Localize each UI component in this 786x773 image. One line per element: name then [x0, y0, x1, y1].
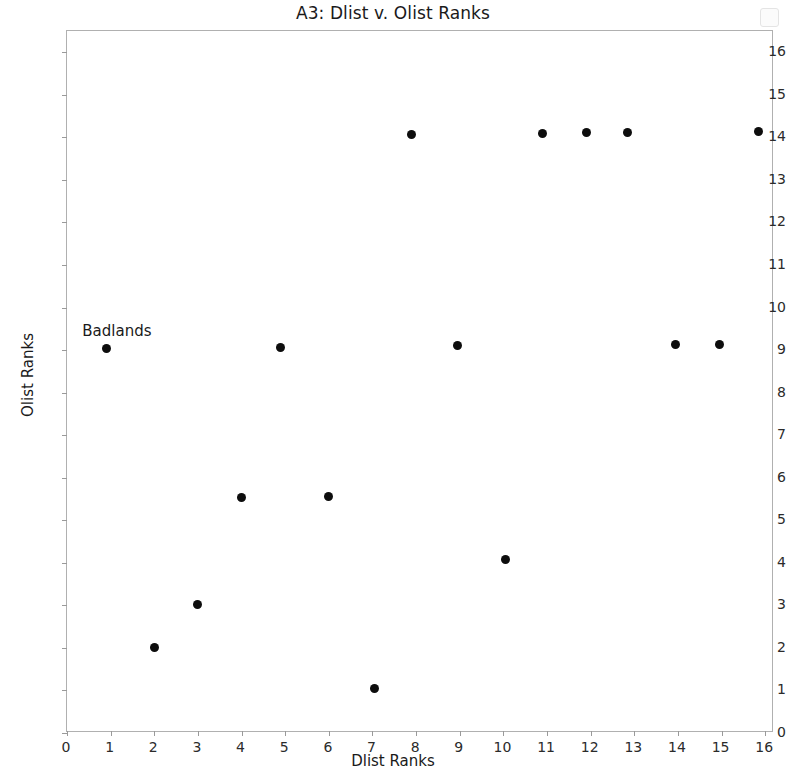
data-point[interactable]: [150, 643, 159, 652]
y-tick-mark: [62, 350, 67, 351]
data-point[interactable]: [102, 344, 111, 353]
x-tick-mark: [591, 731, 592, 736]
y-tick-mark: [62, 690, 67, 691]
y-tick-label: 5: [731, 511, 786, 527]
x-tick-mark: [242, 731, 243, 736]
legend-placeholder-box[interactable]: [760, 8, 779, 27]
x-tick-mark: [154, 731, 155, 736]
y-tick-label: 10: [731, 299, 786, 315]
y-tick-mark: [62, 648, 67, 649]
y-tick-label: 4: [731, 554, 786, 570]
y-tick-mark: [62, 435, 67, 436]
y-tick-label: 9: [731, 341, 786, 357]
y-tick-label: 8: [731, 384, 786, 400]
data-point[interactable]: [623, 128, 632, 137]
y-tick-mark: [62, 52, 67, 53]
x-tick-mark: [67, 731, 68, 736]
point-annotation: Badlands: [82, 322, 151, 340]
x-tick-mark: [416, 731, 417, 736]
y-tick-mark: [62, 222, 67, 223]
y-tick-label: 12: [731, 213, 786, 229]
y-tick-mark: [62, 137, 67, 138]
data-point[interactable]: [501, 555, 510, 564]
data-point[interactable]: [324, 492, 333, 501]
y-tick-mark: [62, 393, 67, 394]
scatter-plot-figure: A3: Dlist v. Olist Ranks Badlands 012345…: [0, 0, 786, 773]
data-point[interactable]: [538, 129, 547, 138]
data-point[interactable]: [453, 341, 462, 350]
page-title: A3: Dlist v. Olist Ranks: [0, 3, 786, 23]
y-tick-mark: [62, 308, 67, 309]
y-tick-label: 7: [731, 426, 786, 442]
y-tick-mark: [62, 605, 67, 606]
x-tick-mark: [678, 731, 679, 736]
y-tick-label: 6: [731, 469, 786, 485]
x-tick-mark: [329, 731, 330, 736]
data-point[interactable]: [582, 128, 591, 137]
y-tick-label: 2: [731, 639, 786, 655]
x-tick-mark: [285, 731, 286, 736]
data-point[interactable]: [276, 343, 285, 352]
data-point[interactable]: [193, 600, 202, 609]
y-tick-mark: [62, 478, 67, 479]
y-tick-label: 15: [731, 86, 786, 102]
y-tick-mark: [62, 180, 67, 181]
plot-area: Badlands: [66, 30, 773, 732]
x-axis-label: Dlist Ranks: [0, 752, 786, 770]
y-tick-label: 3: [731, 596, 786, 612]
x-tick-mark: [503, 731, 504, 736]
y-tick-label: 1: [731, 681, 786, 697]
y-tick-label: 11: [731, 256, 786, 272]
data-point[interactable]: [370, 684, 379, 693]
data-point[interactable]: [407, 130, 416, 139]
y-tick-mark: [62, 265, 67, 266]
x-tick-mark: [372, 731, 373, 736]
y-tick-label: 13: [731, 171, 786, 187]
y-tick-label: 0: [731, 724, 786, 740]
x-tick-mark: [111, 731, 112, 736]
x-tick-mark: [198, 731, 199, 736]
data-point[interactable]: [237, 493, 246, 502]
y-tick-label: 16: [731, 43, 786, 59]
y-tick-mark: [62, 95, 67, 96]
y-tick-mark: [62, 520, 67, 521]
data-point[interactable]: [715, 340, 724, 349]
x-tick-mark: [634, 731, 635, 736]
y-axis-label: Olist Ranks: [19, 175, 37, 575]
x-tick-mark: [547, 731, 548, 736]
y-tick-mark: [62, 563, 67, 564]
y-tick-label: 14: [731, 128, 786, 144]
data-point[interactable]: [671, 340, 680, 349]
x-tick-mark: [722, 731, 723, 736]
x-tick-mark: [460, 731, 461, 736]
